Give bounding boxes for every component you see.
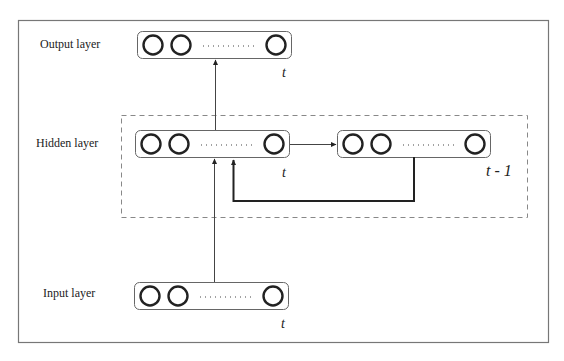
hidden-layer: Hidden layer t xyxy=(36,131,290,181)
output-layer-box xyxy=(138,32,292,59)
rnn-diagram: Output layer t Hidden layer t t - 1 Inpu… xyxy=(0,0,564,361)
context-layer-box xyxy=(338,131,491,158)
output-layer-label: Output layer xyxy=(40,37,100,51)
input-layer-box xyxy=(135,283,289,310)
output-time-label: t xyxy=(282,65,287,80)
hidden-layer-label: Hidden layer xyxy=(36,136,98,150)
context-layer: t - 1 xyxy=(338,131,512,180)
hidden-layer-box xyxy=(136,131,290,158)
input-time-label: t xyxy=(281,316,286,331)
input-layer-label: Input layer xyxy=(43,286,95,300)
context-time-label: t - 1 xyxy=(486,162,512,179)
input-layer: Input layer t xyxy=(43,283,289,332)
hidden-time-label: t xyxy=(282,165,287,180)
arrow-context-feedback xyxy=(234,157,415,201)
output-layer: Output layer t xyxy=(40,32,292,81)
